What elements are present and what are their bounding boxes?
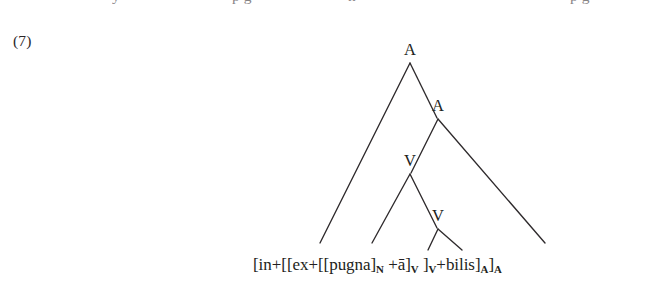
terminal-text-run: +ā]: [384, 255, 411, 274]
tree-branch-line: [428, 229, 438, 250]
tree-node-a-2: A: [432, 98, 444, 115]
terminal-category-subscript: N: [376, 263, 384, 275]
tree-branch-line: [372, 174, 410, 243]
terminal-category-subscript: V: [411, 263, 419, 275]
tree-branch-line: [320, 63, 410, 243]
tree-node-v-1: V: [404, 153, 416, 170]
tree-branch-line: [438, 229, 462, 250]
terminal-text-run: +bilis]: [436, 255, 480, 274]
tree-node-v-2: V: [432, 208, 444, 225]
terminal-text-run: ]: [419, 255, 429, 274]
terminal-category-subscript: A: [494, 263, 502, 275]
terminal-bracketed-string: [in+[[ex+[[pugna]N +ā]V ]V+bilis]A]A: [253, 256, 502, 275]
tree-branch-line: [438, 119, 545, 243]
tree-node-root-a: A: [404, 42, 416, 59]
terminal-text-run: [in+[[ex+[[pugna]: [253, 255, 376, 274]
